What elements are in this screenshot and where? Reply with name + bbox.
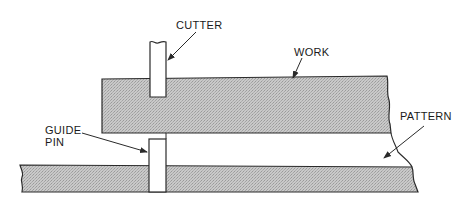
diagram-drawing: [0, 0, 469, 205]
diagram-canvas: CUTTER WORK PATTERN GUIDE PIN: [0, 0, 469, 205]
guide-pin-label-line2: PIN: [45, 136, 64, 148]
guide-pin-leader-arrow: [82, 133, 147, 152]
cutter-leader-arrow: [168, 32, 196, 60]
work-leader-arrow: [293, 58, 302, 78]
work-piece: [102, 76, 391, 133]
pattern-label: PATTERN: [400, 110, 452, 122]
cutter-label: CUTTER: [176, 19, 222, 31]
work-label: WORK: [294, 46, 329, 58]
cutter: [150, 41, 166, 97]
guide-pin: [149, 133, 166, 192]
guide-pin-label-line1: GUIDE: [45, 124, 81, 136]
pattern-piece: [20, 165, 418, 192]
